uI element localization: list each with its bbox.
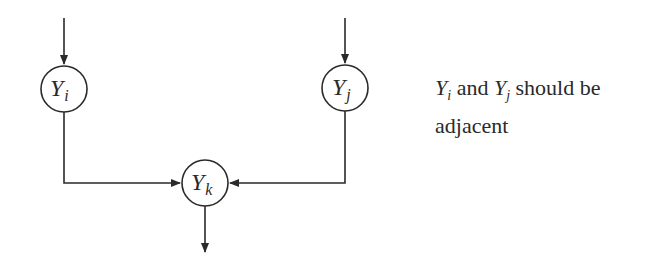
node-yk-subscript: k xyxy=(205,181,212,198)
node-yj-label: Yj xyxy=(332,75,351,103)
note-yj-base: Y xyxy=(494,75,506,100)
edge-yj-to-yk xyxy=(230,111,345,183)
node-yk-base: Y xyxy=(191,169,204,195)
node-yi-base: Y xyxy=(50,75,63,101)
node-yi-subscript: i xyxy=(64,87,68,104)
edge-yi-to-yk xyxy=(64,112,180,183)
adjacency-note: Yi and Yj should be adjacent xyxy=(435,73,662,141)
note-and-text: and xyxy=(451,75,494,100)
node-yj-base: Y xyxy=(332,74,345,100)
node-yi-label: Yi xyxy=(50,76,69,104)
node-yj-subscript: j xyxy=(346,86,350,103)
note-yi-base: Y xyxy=(435,75,447,100)
node-yk-label: Yk xyxy=(191,170,212,198)
